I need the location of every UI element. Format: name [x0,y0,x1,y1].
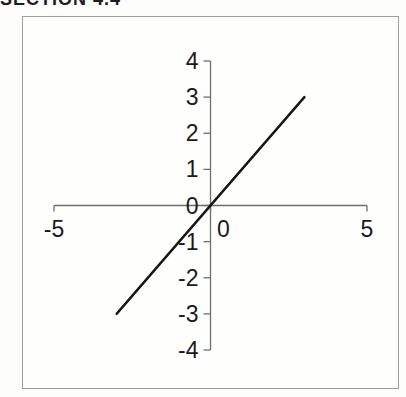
x-tick-label: -5 [44,216,64,242]
line-chart: -50543210-1-2-3-4 [23,17,398,388]
y-tick-label: -4 [178,337,199,363]
y-tick-label: -2 [178,265,198,291]
chart-frame: -50543210-1-2-3-4 [22,16,399,389]
y-tick-label: 3 [186,84,199,110]
y-tick-label: 1 [186,156,199,182]
cropped-header-text-content: SECTION 4.4 [0,0,180,6]
y-tick-label: 0 [186,193,199,219]
cropped-header-text: SECTION 4.4 [0,0,180,6]
y-tick-label: 2 [186,120,199,146]
x-tick-label: 5 [361,216,374,242]
y-tick-label: 4 [186,48,199,74]
y-tick-label: -3 [178,301,198,327]
scanned-figure-page: SECTION 4.4 -50543210-1-2-3-4 [0,0,406,397]
x-tick-label: 0 [217,216,230,242]
